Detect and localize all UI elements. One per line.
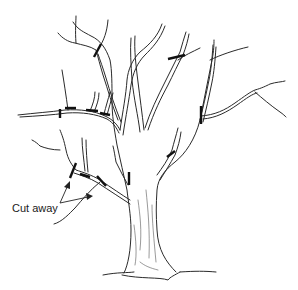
ground-line <box>103 271 216 280</box>
annotation-arrows <box>60 181 93 203</box>
cut-mark <box>86 110 98 111</box>
central-branches <box>120 24 200 135</box>
arrowhead-icon <box>64 181 70 189</box>
cut-away-label: Cut away <box>12 202 58 214</box>
trunk <box>73 22 214 273</box>
pruning-diagram: Cut away <box>0 0 298 290</box>
arrow-to-cut-lower <box>60 197 88 203</box>
arrowhead-icon <box>86 193 93 200</box>
cut-mark <box>97 176 106 186</box>
